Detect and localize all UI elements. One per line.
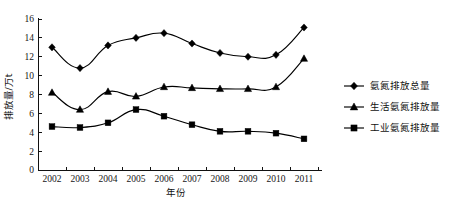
data-point-square — [301, 136, 307, 142]
series-1 — [49, 24, 308, 72]
legend-label: 生活氨氮排放量 — [370, 101, 440, 112]
data-point-diamond — [77, 65, 84, 72]
y-tick-label: 16 — [25, 14, 35, 24]
series-layer — [48, 24, 307, 142]
line-chart: 0246810121416 20022003200420052006200720… — [0, 0, 454, 201]
series-line — [52, 27, 304, 68]
y-tick-label: 12 — [25, 52, 35, 62]
data-point-square — [217, 128, 223, 134]
x-tick-label: 2007 — [183, 174, 202, 184]
data-point-square — [245, 128, 251, 134]
data-point-square — [351, 125, 357, 131]
data-point-diamond — [273, 51, 280, 58]
data-point-square — [161, 113, 167, 119]
series-line — [52, 59, 304, 110]
data-point-diamond — [105, 42, 112, 49]
x-tick-label: 2002 — [43, 174, 62, 184]
x-tick-label: 2005 — [127, 174, 146, 184]
data-point-square — [49, 124, 55, 130]
x-tick-label: 2008 — [211, 174, 230, 184]
y-tick-label: 0 — [29, 165, 34, 175]
y-axis: 0246810121416 — [25, 14, 42, 175]
x-tick-label: 2004 — [99, 174, 118, 184]
plot-frame — [38, 18, 322, 170]
y-axis-title: 排放量/万t — [3, 73, 14, 120]
x-tick-label: 2009 — [239, 174, 258, 184]
y-tick-label: 6 — [29, 109, 34, 119]
data-point-square — [133, 107, 139, 113]
chart-screenshot: 0246810121416 20022003200420052006200720… — [0, 0, 454, 201]
data-point-diamond — [161, 30, 168, 37]
chart-canvas: 0246810121416 20022003200420052006200720… — [0, 0, 454, 201]
data-point-diamond — [351, 82, 358, 90]
x-axis-title: 年份 — [166, 187, 186, 198]
axis-lines — [38, 18, 322, 170]
legend-item-1[interactable]: 氨氮排放总量 — [344, 80, 430, 91]
y-tick-label: 2 — [29, 147, 34, 157]
data-point-diamond — [217, 49, 224, 56]
data-point-triangle — [48, 89, 55, 96]
y-tick-label: 8 — [29, 90, 34, 100]
legend-label: 氨氮排放总量 — [370, 80, 430, 91]
legend-item-3[interactable]: 工业氨氮排放量 — [344, 122, 440, 133]
data-point-triangle — [272, 83, 279, 90]
series-2 — [48, 55, 307, 112]
x-axis: 2002200320042005200620072008200920102011 — [43, 167, 319, 185]
legend-label: 工业氨氮排放量 — [370, 122, 440, 133]
data-point-triangle — [300, 55, 307, 62]
x-tick-label: 2010 — [267, 174, 286, 184]
y-tick-label: 4 — [29, 128, 34, 138]
x-tick-label: 2011 — [295, 174, 314, 184]
series-3 — [49, 107, 307, 142]
y-tick-label: 14 — [25, 33, 35, 43]
data-point-square — [189, 122, 195, 128]
y-tick-label: 10 — [25, 71, 35, 81]
legend-item-2[interactable]: 生活氨氮排放量 — [344, 101, 440, 112]
x-tick-label: 2003 — [71, 174, 90, 184]
series-line — [52, 109, 304, 139]
chart-legend[interactable]: 氨氮排放总量生活氨氮排放量工业氨氮排放量 — [344, 80, 440, 133]
data-point-square — [77, 125, 83, 131]
x-tick-label: 2006 — [155, 174, 174, 184]
data-point-square — [273, 130, 279, 136]
data-point-diamond — [189, 40, 196, 47]
data-point-square — [105, 120, 111, 126]
data-point-diamond — [245, 53, 252, 60]
data-point-diamond — [133, 34, 140, 41]
